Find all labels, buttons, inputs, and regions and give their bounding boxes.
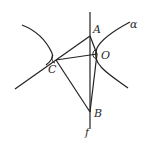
edge-CA: [56, 36, 90, 60]
edge-CB: [56, 60, 90, 112]
label-O: O: [101, 49, 110, 62]
diagram-canvas: A O C B f α: [0, 0, 146, 146]
label-alpha: α: [130, 18, 138, 31]
label-B: B: [93, 107, 102, 120]
edge-CO: [56, 54, 97, 60]
edge-OB: [90, 54, 97, 112]
label-C: C: [48, 63, 57, 76]
curve-left-upper: [22, 25, 53, 65]
label-A: A: [92, 23, 101, 36]
geometry-figure: A O C B f α: [0, 0, 146, 146]
angle-mark-C: [52, 55, 55, 63]
